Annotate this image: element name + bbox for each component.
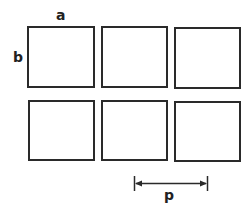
pitch-label: p — [164, 188, 174, 202]
pitch-dimension-arrow — [0, 0, 252, 211]
